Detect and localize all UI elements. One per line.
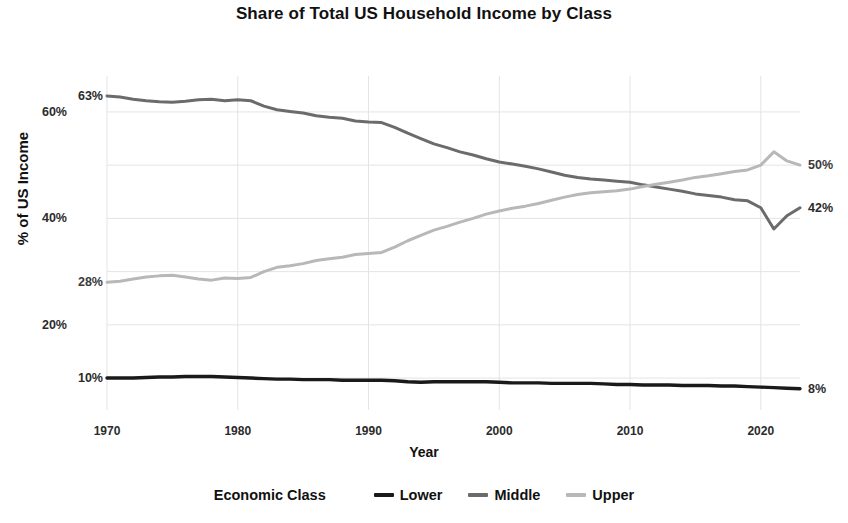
legend-swatch-upper-icon	[566, 493, 586, 497]
end-value-label-lower: 8%	[808, 382, 826, 396]
legend-entry-upper[interactable]: Upper	[566, 487, 634, 503]
end-value-label-middle: 42%	[808, 201, 833, 215]
legend-swatch-lower-icon	[374, 493, 394, 497]
plot-canvas	[107, 80, 800, 410]
legend-swatch-middle-icon	[468, 493, 488, 497]
legend-entry-lower[interactable]: Lower	[374, 487, 443, 503]
start-value-label-upper: 28%	[43, 275, 103, 289]
series-line-upper	[107, 152, 800, 282]
chart-title: Share of Total US Household Income by Cl…	[0, 4, 848, 24]
legend-label: Upper	[592, 487, 634, 503]
x-axis-title: Year	[0, 444, 848, 460]
legend-title: Economic Class	[214, 487, 326, 503]
y-axis-tick-label: 60%	[0, 105, 67, 119]
gridlines	[107, 76, 800, 410]
x-axis-tick-label: 1980	[198, 424, 278, 438]
plot-area: 20%40%60%19701980199020002010202063%28%1…	[107, 80, 800, 410]
y-axis-tick-label: 20%	[0, 318, 67, 332]
legend-entry-middle[interactable]: Middle	[468, 487, 540, 503]
income-share-line-chart: Share of Total US Household Income by Cl…	[0, 0, 848, 523]
legend-label: Middle	[494, 487, 540, 503]
start-value-label-lower: 10%	[43, 371, 103, 385]
x-axis-tick-label: 2000	[459, 424, 539, 438]
x-axis-tick-label: 1970	[67, 424, 147, 438]
series-line-middle	[107, 96, 800, 229]
legend: Economic Class LowerMiddleUpper	[0, 487, 848, 503]
x-axis-tick-label: 1990	[329, 424, 409, 438]
end-value-label-upper: 50%	[808, 158, 833, 172]
x-axis-tick-label: 2010	[590, 424, 670, 438]
start-value-label-middle: 63%	[43, 89, 103, 103]
legend-label: Lower	[400, 487, 443, 503]
y-axis-tick-label: 40%	[0, 211, 67, 225]
series-lines	[107, 96, 800, 389]
legend-entry-list: LowerMiddleUpper	[374, 487, 635, 503]
x-axis-tick-label: 2020	[721, 424, 801, 438]
